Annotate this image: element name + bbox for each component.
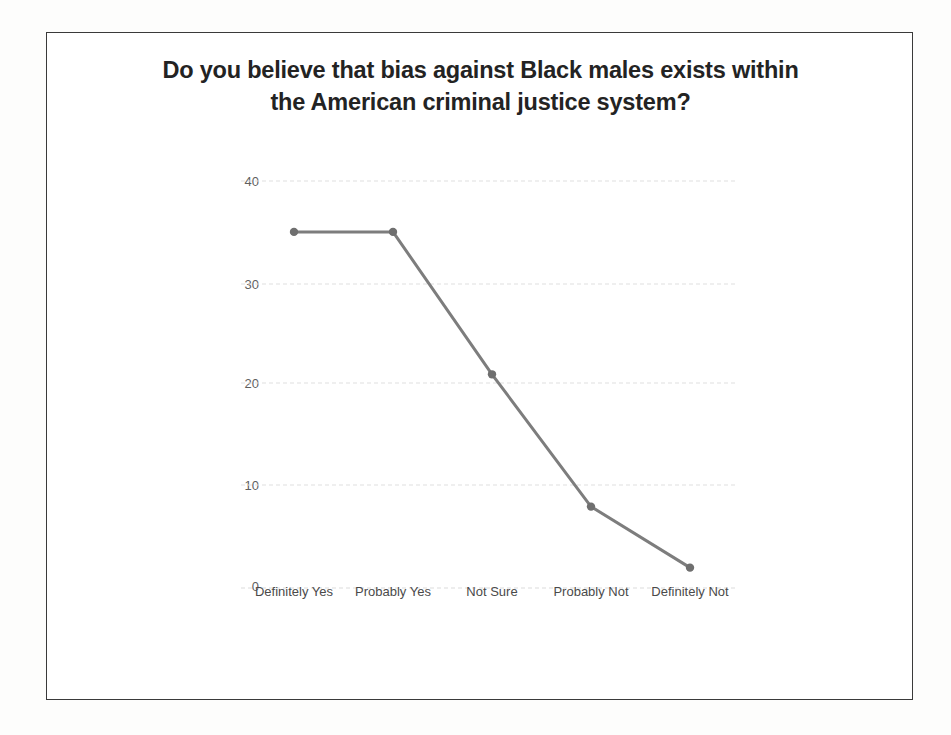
line-chart: 40 30 20 10 0 Definitely Yes Probably Ye… (47, 33, 914, 701)
x-axis-tick-probably-yes: Probably Yes (355, 584, 431, 599)
data-point-definitely-not (686, 563, 694, 571)
data-point-probably-yes (389, 228, 397, 236)
plot-canvas (47, 33, 914, 701)
data-series-responses (290, 228, 694, 572)
x-axis-tick-definitely-not: Definitely Not (651, 584, 728, 599)
data-point-probably-not (587, 502, 595, 510)
gridlines (241, 181, 736, 588)
series-line (294, 232, 690, 568)
x-axis-tick-definitely-yes: Definitely Yes (255, 584, 333, 599)
x-axis-tick-probably-not: Probably Not (553, 584, 628, 599)
x-axis-tick-not-sure: Not Sure (466, 584, 517, 599)
data-point-not-sure (488, 370, 496, 378)
data-point-definitely-yes (290, 228, 298, 236)
slide-frame: Do you believe that bias against Black m… (46, 32, 913, 700)
series-markers (290, 228, 694, 572)
